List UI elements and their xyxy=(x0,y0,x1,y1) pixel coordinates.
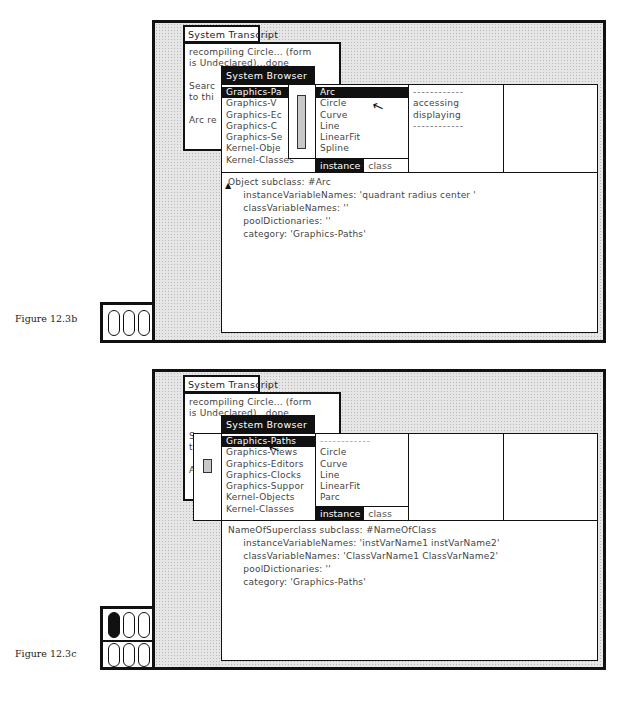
method-list-pane[interactable] xyxy=(503,84,598,173)
transcript-line: recompiling Circle... (form xyxy=(189,397,335,408)
pill-icon xyxy=(138,612,150,638)
instance-class-switch[interactable]: instance class xyxy=(316,506,408,520)
code-pane[interactable]: Object subclass: #Arc instanceVariableNa… xyxy=(221,172,598,333)
browser-title: System Browser xyxy=(226,419,307,430)
category-item[interactable]: Graphics-Suppor xyxy=(222,481,315,492)
browser-title: System Browser xyxy=(226,70,307,81)
protocol-separator: ------------ xyxy=(409,121,503,132)
text-caret-icon: ▲ xyxy=(225,181,231,190)
pill-icon xyxy=(123,643,135,667)
code-line: category: 'Graphics-Paths' xyxy=(228,576,591,589)
code-line: poolDictionaries: '' xyxy=(228,563,591,576)
class-item[interactable]: Parc xyxy=(316,492,408,503)
collapsed-window-icon-active[interactable] xyxy=(100,606,155,643)
category-item[interactable]: Graphics-Editors xyxy=(222,459,315,470)
transcript-title-tab[interactable]: System Transcript xyxy=(183,25,260,43)
category-item[interactable]: Graphics-Clocks xyxy=(222,470,315,481)
class-switch-button[interactable]: class xyxy=(364,159,396,172)
figure-caption: Figure 12.3c xyxy=(15,648,77,659)
transcript-title: System Transcript xyxy=(188,29,278,40)
code-line: instanceVariableNames: 'quadrant radius … xyxy=(228,189,591,202)
class-item[interactable]: LinearFit xyxy=(316,132,408,143)
class-item[interactable]: Curve xyxy=(316,459,408,470)
code-pane[interactable]: NameOfSuperclass subclass: #NameOfClass … xyxy=(221,520,598,661)
class-list-pane[interactable]: ------------ Circle Curve Line LinearFit… xyxy=(315,433,409,521)
class-item[interactable]: Spline xyxy=(316,143,408,154)
transcript-title-tab[interactable]: System Transcript xyxy=(183,375,260,393)
protocol-list-pane[interactable] xyxy=(408,433,504,521)
protocol-item[interactable]: accessing xyxy=(409,98,503,109)
scrollbar[interactable] xyxy=(193,433,223,521)
instance-switch-button[interactable]: instance xyxy=(316,507,364,520)
collapsed-window-icon[interactable] xyxy=(100,640,155,670)
pill-filled-icon xyxy=(108,612,120,638)
class-item-selected[interactable]: Arc xyxy=(316,87,408,98)
category-item[interactable]: Kernel-Classes xyxy=(222,504,315,515)
method-list-pane[interactable] xyxy=(503,433,598,521)
class-list-pane[interactable]: Arc Circle Curve Line LinearFit Spline i… xyxy=(315,84,409,173)
code-line: classVariableNames: 'ClassVarName1 Class… xyxy=(228,550,591,563)
figure-caption: Figure 12.3b xyxy=(15,313,77,324)
instance-switch-button[interactable]: instance xyxy=(316,159,364,172)
code-line: classVariableNames: '' xyxy=(228,202,591,215)
transcript-title: System Transcript xyxy=(188,379,278,390)
browser-title-tab[interactable]: System Browser xyxy=(221,66,315,85)
pill-icon xyxy=(123,310,135,336)
class-separator: ------------ xyxy=(316,436,408,447)
protocol-separator: ------------ xyxy=(409,87,503,98)
class-item[interactable]: Line xyxy=(316,121,408,132)
code-line: poolDictionaries: '' xyxy=(228,215,591,228)
class-item[interactable]: Line xyxy=(316,470,408,481)
pill-icon xyxy=(123,612,135,638)
code-line: instanceVariableNames: 'instVarName1 ins… xyxy=(228,537,591,550)
browser-title-tab[interactable]: System Browser xyxy=(221,415,315,434)
scrollbar-thumb[interactable] xyxy=(297,95,306,149)
scrollbar-thumb[interactable] xyxy=(203,459,212,473)
class-item[interactable]: Curve xyxy=(316,110,408,121)
pill-icon xyxy=(108,643,120,667)
class-switch-button[interactable]: class xyxy=(364,507,396,520)
pill-icon xyxy=(138,643,150,667)
code-line: NameOfSuperclass subclass: #NameOfClass xyxy=(228,524,591,537)
pill-icon xyxy=(138,310,150,336)
collapsed-window-icon[interactable] xyxy=(100,302,155,343)
protocol-item[interactable]: displaying xyxy=(409,110,503,121)
category-item[interactable]: Kernel-Objects xyxy=(222,492,315,503)
class-item[interactable]: LinearFit xyxy=(316,481,408,492)
code-line: category: 'Graphics-Paths' xyxy=(228,228,591,241)
protocol-list-pane[interactable]: ------------ accessing displaying ------… xyxy=(408,84,504,173)
code-line: Object subclass: #Arc xyxy=(228,176,591,189)
scrollbar[interactable] xyxy=(288,84,316,159)
class-item[interactable]: Circle xyxy=(316,98,408,109)
pill-icon xyxy=(108,310,120,336)
instance-class-switch[interactable]: instance class xyxy=(316,158,408,172)
transcript-line: recompiling Circle... (form xyxy=(189,47,335,58)
class-item[interactable]: Circle xyxy=(316,447,408,458)
